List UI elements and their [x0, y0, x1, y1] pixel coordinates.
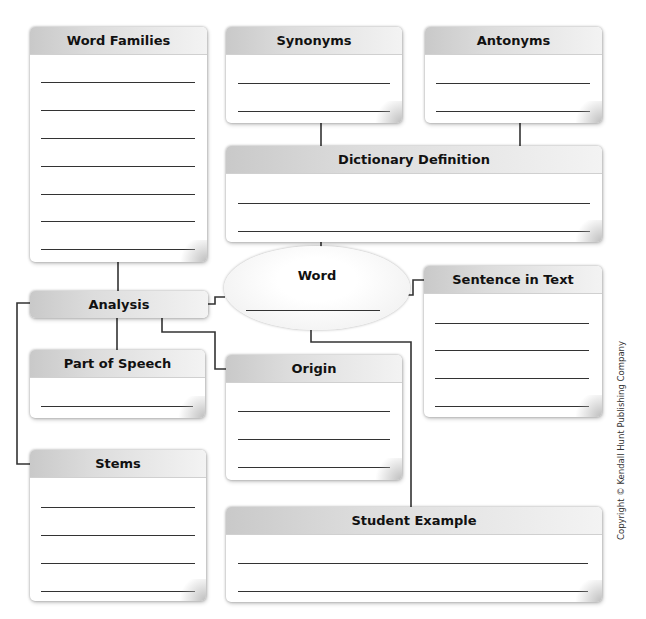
- blank-line[interactable]: [435, 378, 589, 379]
- copyright-text: Copyright © Kendall Hunt Publishing Comp…: [616, 341, 626, 540]
- sentence-in-text-box: Sentence in Text: [424, 266, 602, 417]
- blank-line[interactable]: [435, 406, 589, 407]
- blank-line[interactable]: [41, 507, 195, 508]
- origin-box: Origin: [226, 355, 402, 480]
- blank-line[interactable]: [436, 111, 590, 112]
- part-of-speech-header: Part of Speech: [30, 350, 205, 378]
- word-ellipse: Word: [224, 246, 410, 330]
- stems-header: Stems: [30, 450, 206, 478]
- blank-line[interactable]: [41, 166, 195, 167]
- blank-line[interactable]: [238, 111, 390, 112]
- blank-line[interactable]: [238, 591, 588, 592]
- word-families-box: Word Families: [30, 27, 207, 262]
- blank-line[interactable]: [435, 350, 589, 351]
- blank-line[interactable]: [41, 82, 195, 83]
- blank-line[interactable]: [41, 535, 195, 536]
- dictionary-definition-box: Dictionary Definition: [226, 146, 602, 242]
- analysis-box: Analysis: [30, 291, 208, 318]
- stems-box: Stems: [30, 450, 206, 601]
- analysis-header: Analysis: [30, 291, 208, 318]
- student-example-box: Student Example: [226, 507, 602, 602]
- blank-line[interactable]: [238, 411, 390, 412]
- blank-line[interactable]: [238, 203, 590, 204]
- word-blank-line[interactable]: [246, 310, 380, 311]
- part-of-speech-box: Part of Speech: [30, 350, 205, 418]
- antonyms-box: Antonyms: [425, 27, 602, 123]
- blank-line[interactable]: [41, 138, 195, 139]
- blank-line[interactable]: [41, 406, 193, 407]
- blank-line[interactable]: [41, 591, 195, 592]
- blank-line[interactable]: [41, 249, 195, 250]
- blank-line[interactable]: [238, 231, 590, 232]
- blank-line[interactable]: [436, 83, 590, 84]
- blank-line[interactable]: [41, 563, 195, 564]
- synonyms-header: Synonyms: [226, 27, 402, 55]
- word-families-header: Word Families: [30, 27, 207, 55]
- blank-line[interactable]: [435, 323, 589, 324]
- dictionary-definition-header: Dictionary Definition: [226, 146, 602, 174]
- sentence-in-text-header: Sentence in Text: [424, 266, 602, 294]
- blank-line[interactable]: [41, 110, 195, 111]
- blank-line[interactable]: [238, 439, 390, 440]
- word-label: Word: [224, 268, 410, 283]
- antonyms-header: Antonyms: [425, 27, 602, 55]
- blank-line[interactable]: [238, 83, 390, 84]
- origin-header: Origin: [226, 355, 402, 383]
- blank-line[interactable]: [238, 467, 390, 468]
- blank-line[interactable]: [41, 221, 195, 222]
- blank-line[interactable]: [41, 194, 195, 195]
- student-example-header: Student Example: [226, 507, 602, 535]
- blank-line[interactable]: [238, 563, 588, 564]
- synonyms-box: Synonyms: [226, 27, 402, 123]
